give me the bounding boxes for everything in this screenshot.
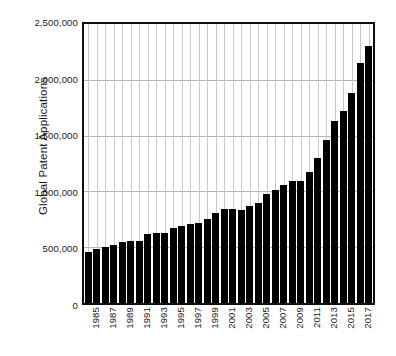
y-axis-tick-labels: 0500,0001,000,0001,500,0002,000,0002,500… [28, 22, 78, 305]
x-axis-tick-labels: 1985198719891991199319951997199920012003… [82, 307, 375, 355]
x-tick-label: 1991 [141, 307, 152, 329]
y-tick-label: 2,000,000 [28, 73, 78, 84]
bar [136, 241, 143, 303]
x-tick-label: 2017 [362, 307, 373, 329]
y-tick-label: 2,500,000 [28, 17, 78, 28]
x-tick-label: 2003 [243, 307, 254, 329]
bar [289, 181, 296, 303]
x-tick-label: 1987 [107, 307, 118, 329]
x-tick-label: 1999 [209, 307, 220, 329]
bar [178, 226, 185, 303]
bar [280, 185, 287, 303]
bar [331, 121, 338, 303]
y-tick-label: 1,500,000 [28, 130, 78, 141]
bar [119, 242, 126, 303]
bar [212, 213, 219, 303]
gridline-horizontal [84, 80, 373, 81]
bar [153, 233, 160, 303]
bar [204, 219, 211, 303]
bar [340, 111, 347, 303]
bar [306, 172, 313, 303]
x-tick-label: 2013 [328, 307, 339, 329]
plot-area [82, 22, 375, 305]
bar [365, 46, 372, 303]
x-tick-label: 1989 [124, 307, 135, 329]
bar [246, 206, 253, 303]
y-tick-label: 1,000,000 [28, 186, 78, 197]
x-tick-label: 2001 [226, 307, 237, 329]
x-tick-label: 1997 [192, 307, 203, 329]
x-tick-label: 1993 [158, 307, 169, 329]
bar [263, 194, 270, 303]
bar [323, 140, 330, 303]
x-tick-label: 1985 [90, 307, 101, 329]
bar [357, 63, 364, 303]
bar [187, 224, 194, 303]
bar [314, 158, 321, 303]
y-tick-label: 500,000 [28, 243, 78, 254]
x-tick-label: 2009 [294, 307, 305, 329]
bar [238, 210, 245, 303]
bar [272, 190, 279, 303]
gridline-horizontal [84, 136, 373, 137]
bar [229, 209, 236, 303]
bar [297, 181, 304, 303]
bar [348, 93, 355, 303]
bar [102, 247, 109, 303]
bar [127, 241, 134, 303]
bar [110, 245, 117, 303]
patent-applications-bar-chart: Global Patent Applications 0500,0001,000… [0, 0, 396, 356]
bar [170, 228, 177, 303]
bar [144, 234, 151, 303]
x-tick-label: 2007 [277, 307, 288, 329]
x-tick-label: 1995 [175, 307, 186, 329]
bar [221, 209, 228, 303]
bar [93, 249, 100, 303]
x-tick-label: 2005 [260, 307, 271, 329]
y-tick-label: 0 [28, 300, 78, 311]
bar [85, 252, 92, 303]
x-tick-label: 2011 [311, 307, 322, 328]
gridline-horizontal [84, 191, 373, 192]
bar [195, 223, 202, 303]
plot-inner [84, 24, 373, 303]
x-tick-label: 2015 [345, 307, 356, 329]
bar [255, 203, 262, 303]
bar [161, 233, 168, 303]
